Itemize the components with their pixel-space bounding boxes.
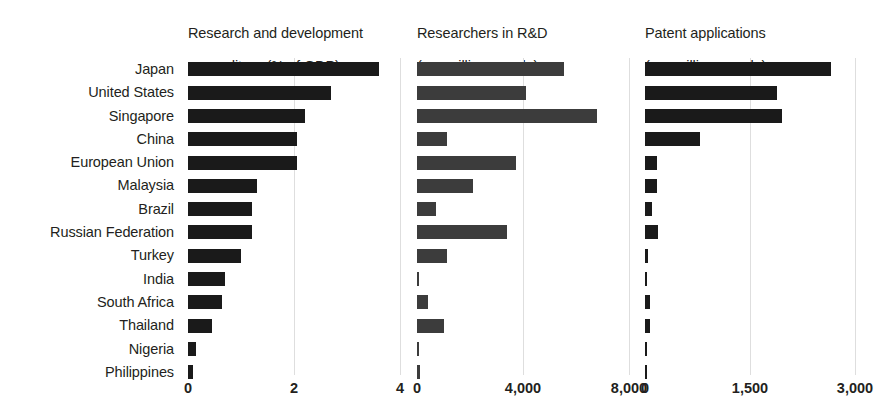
multi-panel-bar-chart: Research and development expenditure (% … — [0, 0, 881, 419]
bar-row — [417, 291, 629, 314]
bar-row — [188, 105, 400, 128]
bar — [645, 225, 658, 239]
x-axis-tick-label: 0 — [641, 380, 649, 396]
bar-row — [417, 128, 629, 151]
bar-row — [188, 314, 400, 337]
plot-area — [645, 58, 855, 375]
bar-row — [417, 174, 629, 197]
x-axis-tick-label: 0 — [413, 380, 421, 396]
bar-row — [645, 151, 855, 174]
bar-row — [417, 221, 629, 244]
bar-row — [188, 198, 400, 221]
bar — [417, 295, 428, 309]
category-label: Nigeria — [0, 338, 181, 361]
category-label: Brazil — [0, 198, 181, 221]
bar-row — [188, 338, 400, 361]
panel-rd-expenditure: 024 — [188, 58, 400, 378]
category-label: United States — [0, 81, 181, 104]
bar — [417, 62, 564, 76]
bar-row — [417, 151, 629, 174]
bar-row — [417, 268, 629, 291]
category-axis-labels: JapanUnited StatesSingaporeChinaEuropean… — [0, 58, 181, 384]
bar-row — [417, 105, 629, 128]
category-label: Malaysia — [0, 174, 181, 197]
bar-row — [417, 58, 629, 81]
bar — [188, 62, 379, 76]
bar-row — [417, 198, 629, 221]
bar — [645, 295, 650, 309]
panel-title-line-1: Patent applications — [645, 25, 766, 41]
bar — [645, 109, 782, 123]
bar — [417, 249, 447, 263]
category-label: Singapore — [0, 105, 181, 128]
bar-row — [188, 81, 400, 104]
bar — [417, 319, 444, 333]
bar-row — [417, 314, 629, 337]
category-label: Japan — [0, 58, 181, 81]
bar — [188, 179, 257, 193]
x-axis-tick-label: 4 — [396, 380, 404, 396]
gridline — [855, 58, 856, 375]
bar-row — [645, 268, 855, 291]
panel-researchers-in-rd: 04,0008,000 — [417, 58, 629, 378]
bar — [417, 272, 419, 286]
x-axis-tick-label: 1,500 — [732, 380, 768, 396]
panel-title-line-1: Researchers in R&D — [417, 25, 547, 41]
bar-row — [188, 268, 400, 291]
bar — [188, 272, 225, 286]
category-label: Turkey — [0, 244, 181, 267]
bar-row — [188, 151, 400, 174]
bar-row — [188, 174, 400, 197]
bar-row — [645, 81, 855, 104]
bar-row — [188, 221, 400, 244]
bar — [417, 342, 419, 356]
bar — [188, 202, 252, 216]
category-label: South Africa — [0, 291, 181, 314]
bar-row — [645, 128, 855, 151]
x-axis: 01,5003,000 — [645, 380, 855, 404]
x-axis-tick-label: 2 — [290, 380, 298, 396]
bar — [645, 202, 652, 216]
bar — [188, 132, 297, 146]
bar — [645, 179, 657, 193]
bar — [417, 109, 597, 123]
bar — [645, 342, 647, 356]
panel-patent-applications: 01,5003,000 — [645, 58, 855, 378]
x-axis-tick-label: 3,000 — [837, 380, 873, 396]
bar-row — [417, 338, 629, 361]
bar — [188, 109, 305, 123]
bar-row — [645, 314, 855, 337]
bar — [188, 249, 241, 263]
bar — [188, 225, 252, 239]
bar-row — [645, 244, 855, 267]
bar — [188, 295, 222, 309]
bar — [417, 132, 447, 146]
bar — [188, 342, 196, 356]
bar — [645, 249, 648, 263]
plot-area — [188, 58, 400, 375]
x-axis: 024 — [188, 380, 400, 404]
category-label: European Union — [0, 151, 181, 174]
bar-row — [645, 221, 855, 244]
x-axis: 04,0008,000 — [417, 380, 629, 404]
bar — [417, 179, 473, 193]
plot-area — [417, 58, 629, 375]
x-axis-tick-label: 0 — [184, 380, 192, 396]
category-label: Thailand — [0, 314, 181, 337]
category-label: India — [0, 268, 181, 291]
category-label: Philippines — [0, 361, 181, 384]
bar — [417, 202, 436, 216]
bar-row — [645, 174, 855, 197]
x-axis-tick-label: 4,000 — [505, 380, 541, 396]
bar-row — [645, 291, 855, 314]
bar — [417, 365, 420, 379]
bar-row — [188, 128, 400, 151]
bar-row — [645, 58, 855, 81]
bar-row — [188, 244, 400, 267]
bar-row — [188, 291, 400, 314]
bar — [188, 365, 193, 379]
bar-row — [645, 338, 855, 361]
bar-row — [417, 81, 629, 104]
bar — [645, 132, 700, 146]
bar — [188, 86, 331, 100]
